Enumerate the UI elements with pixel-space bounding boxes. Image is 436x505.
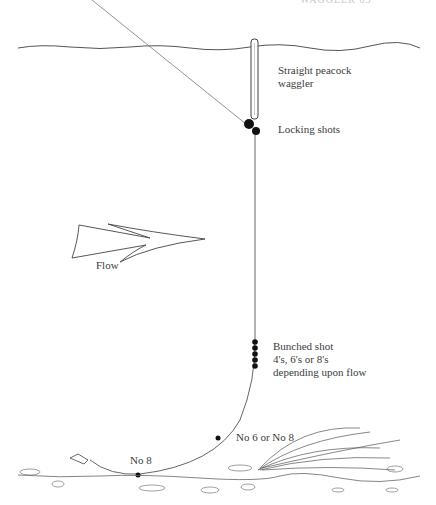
water-surface [18,42,420,50]
locking-shot-icon [252,127,260,135]
riverbed [18,473,420,481]
bunched-shot-icon [252,339,258,369]
bottom-shot-label: No 8 [130,454,152,467]
mid-shot-icon [216,436,221,441]
flow-arrow-icon [72,224,205,262]
rig-diagram [0,0,436,505]
bunched-shot-label: Bunched shot 4's, 6's or 8's depending u… [273,340,366,379]
locking-shot-icon [244,119,254,129]
hook-bait-icon [70,454,88,464]
rod-line [92,0,246,124]
flow-label: Flow [96,259,119,272]
locking-shots-label: Locking shots [278,123,340,136]
hook-line [90,135,255,474]
mid-shot-label: No 6 or No 8 [236,431,294,444]
float-label: Straight peacock waggler [278,64,352,90]
